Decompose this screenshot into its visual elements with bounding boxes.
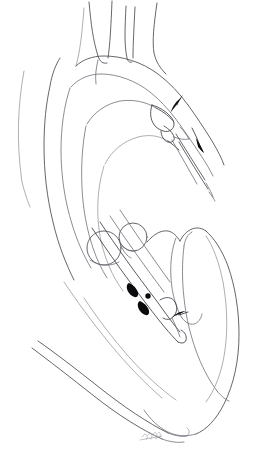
illustration-canvas: Aortic arch and left ventricle with tran… (0, 0, 258, 451)
device-marker-2 (145, 293, 150, 298)
canvas-background (0, 0, 258, 451)
anatomy-line-drawing (0, 0, 258, 451)
